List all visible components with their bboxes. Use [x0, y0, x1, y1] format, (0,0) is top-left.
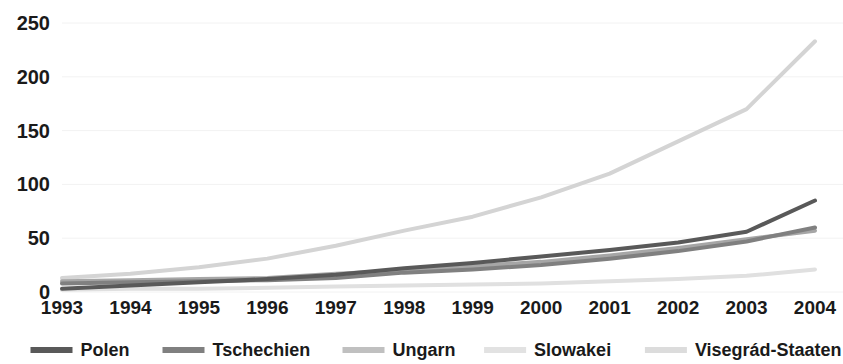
x-axis-tick-label: 2000 [520, 297, 562, 318]
x-axis-tick-label: 1997 [315, 297, 357, 318]
x-axis-tick-label: 1996 [246, 297, 288, 318]
legend-label: Ungarn [393, 340, 456, 360]
y-axis-tick-label: 150 [17, 120, 50, 142]
y-axis-tick-label: 250 [17, 12, 50, 34]
y-axis-tick-label: 50 [28, 227, 50, 249]
legend-item[interactable]: Polen [31, 340, 130, 360]
legend-label: Visegrád-Staaten [695, 340, 842, 360]
x-axis-tick-label: 1999 [452, 297, 494, 318]
legend-label: Tschechien [213, 340, 311, 360]
x-axis-tick-label: 2003 [725, 297, 767, 318]
legend-item[interactable]: Ungarn [343, 340, 456, 360]
x-axis-tick-label: 1995 [178, 297, 221, 318]
legend-item[interactable]: Slowakei [484, 340, 611, 360]
y-axis-tick-label: 100 [17, 173, 50, 195]
chart-canvas: 050100150200250 199319941995199619971998… [0, 0, 843, 364]
x-axis-tick-label: 1993 [41, 297, 83, 318]
x-axis-tick-label: 2001 [588, 297, 631, 318]
legend-item[interactable]: Tschechien [163, 340, 311, 360]
legend-label: Polen [81, 340, 130, 360]
series-lines [62, 41, 815, 290]
x-axis-tick-label: 2004 [794, 297, 837, 318]
line-chart: 050100150200250 199319941995199619971998… [0, 0, 843, 364]
y-axis-tick-label: 200 [17, 66, 50, 88]
x-axis-ticks: 1993199419951996199719981999200020012002… [41, 297, 837, 318]
x-axis-tick-label: 1994 [109, 297, 152, 318]
x-axis-tick-label: 2002 [657, 297, 699, 318]
legend-item[interactable]: Visegrád-Staaten [645, 340, 842, 360]
series-line-tschechien [62, 227, 815, 283]
legend-label: Slowakei [534, 340, 611, 360]
y-axis-ticks: 050100150200250 [17, 12, 50, 303]
gridlines [62, 23, 843, 292]
chart-legend: PolenTschechienUngarnSlowakeiVisegrád-St… [31, 340, 842, 360]
x-axis-tick-label: 1998 [383, 297, 425, 318]
